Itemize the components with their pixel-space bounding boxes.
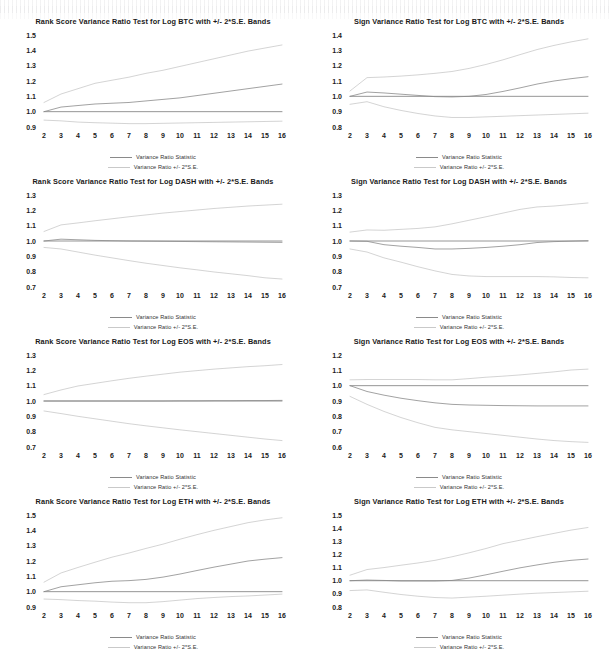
y-tick-label: 1.1 bbox=[26, 222, 36, 229]
x-tick-label: 3 bbox=[365, 292, 369, 299]
y-tick-label: 0.9 bbox=[332, 108, 342, 115]
x-tick-label: 10 bbox=[482, 452, 490, 459]
y-tick-label: 1.1 bbox=[332, 564, 342, 571]
legend-line-swatch bbox=[414, 327, 436, 328]
x-tick-label: 9 bbox=[467, 452, 471, 459]
series-line-statistic bbox=[44, 558, 282, 592]
series-line-upper bbox=[44, 45, 282, 103]
legend-item-bands: Variance Ratio +/- 2*S.E. bbox=[108, 163, 198, 171]
y-tick-label: 1.2 bbox=[332, 207, 342, 214]
x-tick-label: 16 bbox=[584, 612, 592, 619]
x-tick-label: 4 bbox=[382, 292, 386, 299]
x-tick-label: 12 bbox=[516, 612, 524, 619]
x-tick-label: 14 bbox=[244, 612, 252, 619]
y-tick-label: 0.8 bbox=[332, 268, 342, 275]
legend-label: Variance Ratio Statistic bbox=[136, 474, 196, 480]
y-tick-label: 1.3 bbox=[332, 192, 342, 199]
x-tick-label: 16 bbox=[584, 292, 592, 299]
legend-item-statistic: Variance Ratio Statistic bbox=[416, 473, 502, 481]
y-tick-label: 0.9 bbox=[26, 413, 36, 420]
x-tick-label: 11 bbox=[193, 292, 201, 299]
y-tick-label: 1.5 bbox=[26, 512, 36, 519]
series-line-statistic bbox=[350, 241, 588, 249]
x-tick-label: 6 bbox=[110, 452, 114, 459]
chart-legend-rank-btc: Variance Ratio StatisticVariance Ratio +… bbox=[0, 153, 306, 171]
x-tick-label: 5 bbox=[399, 452, 403, 459]
plot-area-rank-dash: 0.70.80.91.01.11.21.32345678910111213141… bbox=[0, 189, 306, 305]
series-line-upper bbox=[44, 365, 282, 395]
legend-item-statistic: Variance Ratio Statistic bbox=[110, 633, 196, 641]
x-tick-label: 14 bbox=[550, 292, 558, 299]
y-tick-label: 1.1 bbox=[332, 222, 342, 229]
series-line-lower bbox=[350, 249, 588, 278]
legend-label: Variance Ratio Statistic bbox=[442, 314, 502, 320]
x-tick-label: 3 bbox=[59, 612, 63, 619]
x-tick-label: 8 bbox=[450, 132, 454, 139]
x-tick-label: 7 bbox=[127, 452, 131, 459]
x-tick-label: 2 bbox=[42, 132, 46, 139]
x-tick-label: 12 bbox=[210, 452, 218, 459]
y-tick-label: 1.4 bbox=[26, 527, 36, 534]
x-tick-label: 7 bbox=[433, 612, 437, 619]
y-tick-label: 1.0 bbox=[26, 588, 36, 595]
x-tick-label: 10 bbox=[482, 612, 490, 619]
x-tick-label: 9 bbox=[467, 132, 471, 139]
x-tick-label: 5 bbox=[93, 292, 97, 299]
x-tick-label: 14 bbox=[244, 292, 252, 299]
legend-item-bands: Variance Ratio +/- 2*S.E. bbox=[108, 643, 198, 651]
legend-label: Variance Ratio Statistic bbox=[442, 154, 502, 160]
series-line-lower bbox=[350, 590, 588, 598]
x-tick-label: 7 bbox=[127, 292, 131, 299]
series-line-upper bbox=[350, 527, 588, 575]
plot-area-sign-eos: 0.60.70.80.91.01.11.22345678910111213141… bbox=[306, 349, 612, 465]
legend-line-swatch bbox=[108, 167, 130, 168]
x-tick-label: 2 bbox=[348, 612, 352, 619]
chart-panel-rank-eos: Rank Score Variance Ratio Test for Log E… bbox=[0, 333, 306, 493]
x-tick-label: 11 bbox=[499, 452, 507, 459]
x-tick-label: 11 bbox=[193, 132, 201, 139]
x-tick-label: 12 bbox=[516, 452, 524, 459]
y-tick-label: 1.5 bbox=[332, 512, 342, 519]
legend-item-statistic: Variance Ratio Statistic bbox=[416, 153, 502, 161]
series-line-statistic bbox=[350, 77, 588, 97]
legend-item-bands: Variance Ratio +/- 2*S.E. bbox=[414, 643, 504, 651]
legend-label: Variance Ratio +/- 2*S.E. bbox=[134, 164, 198, 170]
y-tick-label: 1.3 bbox=[332, 538, 342, 545]
chart-title-rank-eth: Rank Score Variance Ratio Test for Log E… bbox=[0, 497, 306, 506]
x-tick-label: 9 bbox=[161, 132, 165, 139]
x-tick-label: 7 bbox=[433, 292, 437, 299]
y-tick-label: 0.9 bbox=[332, 253, 342, 260]
x-tick-label: 4 bbox=[76, 132, 80, 139]
legend-label: Variance Ratio +/- 2*S.E. bbox=[134, 484, 198, 490]
plot-area-rank-eos: 0.70.80.91.01.11.21.32345678910111213141… bbox=[0, 349, 306, 465]
x-tick-label: 15 bbox=[261, 292, 269, 299]
series-line-lower bbox=[44, 411, 282, 441]
series-line-statistic bbox=[350, 386, 588, 406]
y-tick-label: 0.9 bbox=[332, 398, 342, 405]
x-tick-label: 15 bbox=[567, 292, 575, 299]
x-tick-label: 11 bbox=[499, 132, 507, 139]
x-tick-label: 5 bbox=[93, 612, 97, 619]
y-tick-label: 0.8 bbox=[26, 428, 36, 435]
x-tick-label: 2 bbox=[42, 612, 46, 619]
chart-panel-rank-eth: Rank Score Variance Ratio Test for Log E… bbox=[0, 493, 306, 657]
legend-item-statistic: Variance Ratio Statistic bbox=[110, 473, 196, 481]
series-line-lower bbox=[350, 396, 588, 442]
y-tick-label: 1.3 bbox=[26, 542, 36, 549]
x-tick-label: 2 bbox=[42, 292, 46, 299]
chart-title-sign-eos: Sign Variance Ratio Test for Log EOS wit… bbox=[306, 337, 612, 346]
x-tick-label: 12 bbox=[210, 612, 218, 619]
x-tick-label: 16 bbox=[584, 452, 592, 459]
x-tick-label: 9 bbox=[161, 292, 165, 299]
chart-legend-sign-dash: Variance Ratio StatisticVariance Ratio +… bbox=[306, 313, 612, 331]
legend-line-swatch bbox=[416, 317, 438, 318]
legend-label: Variance Ratio Statistic bbox=[136, 314, 196, 320]
x-tick-label: 9 bbox=[161, 612, 165, 619]
x-tick-label: 13 bbox=[227, 612, 235, 619]
y-tick-label: 1.2 bbox=[26, 207, 36, 214]
x-tick-label: 5 bbox=[399, 292, 403, 299]
chart-title-sign-eth: Sign Variance Ratio Test for Log ETH wit… bbox=[306, 497, 612, 506]
legend-line-swatch bbox=[416, 157, 438, 158]
x-tick-label: 3 bbox=[365, 612, 369, 619]
chart-panel-rank-dash: Rank Score Variance Ratio Test for Log D… bbox=[0, 173, 306, 333]
